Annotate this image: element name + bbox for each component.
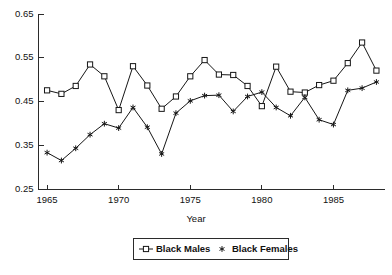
data-point-marker <box>188 74 193 79</box>
data-point-marker <box>102 121 107 127</box>
data-point-marker <box>317 82 322 87</box>
y-tick-label: 0.45 <box>15 95 34 106</box>
x-tick-label: 1965 <box>37 194 58 205</box>
data-point-marker <box>159 151 164 157</box>
data-point-marker <box>274 64 279 69</box>
data-point-marker <box>374 79 379 85</box>
data-point-marker <box>288 89 293 94</box>
data-point-marker <box>345 61 350 66</box>
data-point-marker <box>259 104 264 109</box>
data-point-marker <box>374 68 379 73</box>
chart-series-layer <box>44 40 379 164</box>
y-tick-label: 0.55 <box>15 51 34 62</box>
data-point-marker <box>44 88 49 93</box>
legend-entry-label: Black Males <box>156 243 210 254</box>
data-point-marker <box>302 90 307 95</box>
line-chart: 0.250.350.450.550.65 1965197019751980198… <box>0 0 392 275</box>
data-point-marker <box>216 72 221 77</box>
x-axis-ticks: 19651970197519801985 <box>37 185 345 205</box>
chart-container: 0.250.350.450.550.65 1965197019751980198… <box>0 0 392 275</box>
data-point-marker <box>45 150 50 156</box>
data-point-marker <box>130 64 135 69</box>
data-point-marker <box>202 57 207 62</box>
y-tick-label: 0.65 <box>15 8 34 19</box>
x-tick-label: 1980 <box>251 194 272 205</box>
data-point-marker <box>87 62 92 67</box>
series-black-males <box>44 40 379 113</box>
series-line <box>47 43 376 111</box>
data-point-marker <box>73 83 78 88</box>
data-point-marker <box>145 83 150 88</box>
data-point-marker <box>173 94 178 99</box>
x-tick-label: 1975 <box>180 194 201 205</box>
chart-legend: Black MalesBlack Females <box>134 239 299 260</box>
series-line <box>47 82 376 161</box>
data-point-marker <box>331 122 336 128</box>
x-tick-label: 1985 <box>323 194 344 205</box>
data-point-marker <box>245 83 250 88</box>
data-point-marker <box>331 78 336 83</box>
legend-entry-label: Black Females <box>232 243 298 254</box>
x-tick-label: 1970 <box>108 194 129 205</box>
y-tick-label: 0.35 <box>15 139 34 150</box>
y-axis-ticks: 0.250.350.450.550.65 <box>15 8 44 195</box>
series-black-females <box>45 79 379 163</box>
data-point-marker <box>359 40 364 45</box>
square-marker-icon <box>143 246 148 251</box>
data-point-marker <box>231 72 236 77</box>
y-tick-label: 0.25 <box>15 183 34 194</box>
data-point-marker <box>59 91 64 96</box>
data-point-marker <box>159 106 164 111</box>
data-point-marker <box>116 107 121 112</box>
x-axis-title: Year <box>186 213 205 224</box>
chart-axes <box>39 14 386 190</box>
data-point-marker <box>102 74 107 79</box>
